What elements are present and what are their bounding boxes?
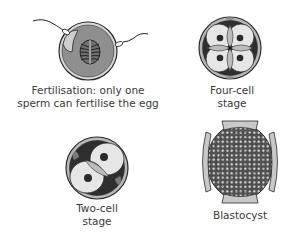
two-cell-label-line-1: Two-cell [76, 202, 118, 215]
nucleus [237, 35, 244, 42]
fertilisation-label: Fertilisation: only one sperm can fertil… [17, 84, 158, 110]
blastocyst-label: Blastocyst [213, 209, 267, 222]
fertilisation-figure [33, 20, 148, 80]
two-cell-label-line-2: stage [76, 215, 118, 228]
four-cell-figure [199, 17, 261, 79]
four-cell-label-line-2: stage [210, 97, 254, 110]
nucleus [84, 174, 92, 182]
sperm-icon [114, 34, 148, 48]
nucleus [100, 153, 108, 161]
nucleus [237, 55, 244, 62]
chromosome-spindle-icon [80, 40, 100, 64]
cell-mass [207, 124, 273, 200]
sperm-icon [33, 20, 71, 36]
four-cell-label: Four-cell stage [210, 84, 254, 110]
nucleus [217, 35, 224, 42]
blastocyst-label-line-1: Blastocyst [213, 209, 267, 222]
two-cell-label: Two-cell stage [76, 202, 118, 228]
blastocyst-figure [203, 121, 278, 203]
nucleus [217, 55, 224, 62]
two-cell-figure [66, 137, 128, 199]
four-cell-label-line-1: Four-cell [210, 84, 254, 97]
fertilisation-label-line-2: sperm can fertilise the egg [17, 97, 158, 110]
embryo-development-diagram [0, 0, 283, 232]
fertilisation-label-line-1: Fertilisation: only one [17, 84, 158, 97]
